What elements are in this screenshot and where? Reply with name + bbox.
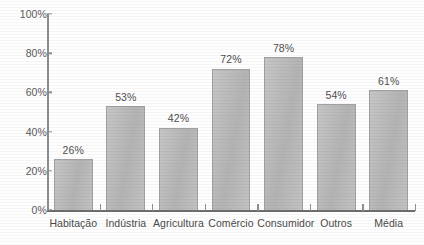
y-axis-tick-label: 60%: [7, 87, 47, 98]
bar-group: 26%: [47, 14, 100, 210]
y-axis-tick-label: 20%: [7, 166, 47, 177]
bar-group: 42%: [152, 14, 205, 210]
bar-value-label: 61%: [362, 76, 415, 87]
y-axis-tick-label: 0%: [7, 205, 47, 216]
y-axis-tick-mark: [47, 13, 52, 14]
bar: [106, 106, 145, 210]
plot-area: 26%53%42%72%78%54%61%: [47, 14, 415, 210]
x-axis-category-label: Consumidor: [257, 216, 310, 231]
bar-group: 53%: [100, 14, 153, 210]
y-axis-tick-mark: [47, 92, 52, 93]
x-axis-tick-mark: [100, 204, 101, 211]
x-axis-tick-mark: [205, 204, 206, 211]
y-axis-tick-mark: [47, 131, 52, 132]
x-axis-category-label: Outros: [310, 216, 363, 231]
bar-chart: 0%20%40%60%80%100% 26%53%42%72%78%54%61%…: [0, 0, 424, 245]
bar-group: 61%: [362, 14, 415, 210]
bar-group: 72%: [205, 14, 258, 210]
y-axis-tick-mark: [47, 170, 52, 171]
x-axis-line: [47, 210, 415, 212]
bar-group: 54%: [310, 14, 363, 210]
x-axis-tick-mark: [415, 204, 416, 211]
x-axis-category-labels: HabitaçãoIndústriaAgriculturaComércioCon…: [47, 216, 415, 236]
y-axis-tick-label: 100%: [7, 9, 47, 20]
x-axis-tick-mark: [152, 204, 153, 211]
x-axis-category-label: Agricultura: [152, 216, 205, 231]
bar-value-label: 53%: [100, 92, 153, 103]
y-axis-tick-label: 40%: [7, 126, 47, 137]
bar-value-label: 54%: [310, 90, 363, 101]
x-axis-tick-mark: [310, 204, 311, 211]
x-axis-category-label: Média: [362, 216, 415, 231]
bar-value-label: 78%: [257, 43, 310, 54]
bar: [54, 159, 93, 210]
x-axis-category-label: Indústria: [100, 216, 153, 231]
bar-value-label: 26%: [47, 145, 100, 156]
x-axis-tick-mark: [362, 204, 363, 211]
y-axis-tick-labels: 0%20%40%60%80%100%: [0, 0, 47, 245]
bar-value-label: 42%: [152, 113, 205, 124]
y-axis-tick-label: 80%: [7, 48, 47, 59]
bar: [159, 128, 198, 210]
bar: [317, 104, 356, 210]
x-axis-tick-mark: [257, 204, 258, 211]
x-axis-category-label: Habitação: [47, 216, 100, 231]
bar: [264, 57, 303, 210]
bar-value-label: 72%: [205, 54, 258, 65]
bar: [369, 90, 408, 210]
bar-group: 78%: [257, 14, 310, 210]
bar: [212, 69, 251, 210]
x-axis-tick-mark: [47, 204, 48, 211]
y-axis-tick-mark: [47, 52, 52, 53]
x-axis-category-label: Comércio: [205, 216, 258, 231]
